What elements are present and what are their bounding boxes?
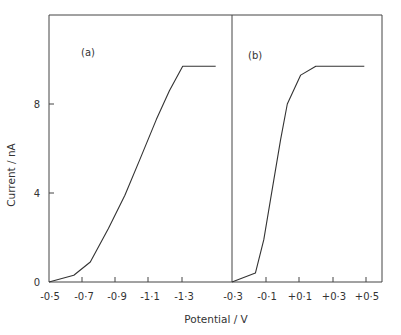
chart: 0 4 8 -0·5 -0·7 -0·9 -1·1 -1·3 -0·3 -0·1… (0, 0, 401, 335)
x-tick-labels-a: -0·5 -0·7 -0·9 -1·1 -1·3 (40, 291, 194, 302)
x-tick-labels-b: -0·3 -0·1 +0·1 +0·3 +0·5 (223, 291, 379, 302)
x-axis-title: Potential / V (184, 313, 248, 325)
x-tick-b-0: -0·3 (223, 291, 243, 302)
x-tick-a-2: -0·9 (107, 291, 127, 302)
x-axis-b (266, 277, 366, 282)
x-tick-a-1: -0·7 (74, 291, 94, 302)
y-tick-4: 4 (34, 188, 40, 199)
y-axis-title: Current / nA (5, 142, 17, 206)
x-tick-a-0: -0·5 (40, 291, 60, 302)
y-tick-labels: 0 4 8 (34, 99, 40, 288)
y-tick-8: 8 (34, 99, 40, 110)
curve-b (232, 66, 364, 282)
panel-label-a: (a) (81, 47, 95, 58)
y-tick-0: 0 (34, 277, 40, 288)
y-axis (49, 104, 54, 193)
x-tick-b-3: +0·3 (322, 291, 346, 302)
x-tick-b-4: +0·5 (355, 291, 379, 302)
panel-label-b: (b) (248, 50, 262, 61)
curve-a (49, 66, 216, 282)
x-tick-a-4: -1·3 (174, 291, 194, 302)
x-tick-a-3: -1·1 (140, 291, 160, 302)
plot-frame (49, 15, 382, 282)
x-tick-b-2: +0·1 (288, 291, 312, 302)
x-tick-b-1: -0·1 (257, 291, 277, 302)
x-axis-a (82, 277, 182, 282)
